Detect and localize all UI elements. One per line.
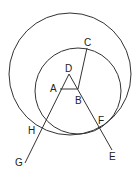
line-DE [69,74,112,150]
label-B: B [75,95,82,106]
label-D: D [65,63,72,74]
label-A: A [50,83,57,94]
label-G: G [15,157,23,168]
segment-BC [78,48,87,89]
euclid-diagram: A B C D E F G H [0,0,140,170]
label-C: C [84,37,91,48]
label-H: H [28,125,35,136]
label-F: F [98,115,104,126]
line-DG [25,74,69,163]
small-circle [35,48,121,134]
label-E: E [109,151,116,162]
